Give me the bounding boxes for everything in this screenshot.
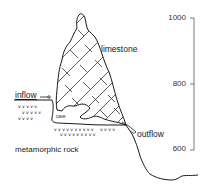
- elevation-tick-1000: 1000: [156, 14, 186, 22]
- svg-text:v v v v: v v v v: [100, 127, 115, 132]
- svg-text:v v v v v: v v v v v: [22, 110, 41, 115]
- metamorphic-rock-label: metamorphic rock: [15, 146, 79, 154]
- svg-text:v v v v v: v v v v v: [18, 104, 37, 109]
- inflow-arrow: [40, 96, 50, 98]
- outflow-label: outflow: [137, 130, 164, 139]
- elevation-tick-600: 600: [156, 145, 186, 153]
- elevation-axis: [190, 18, 194, 150]
- elevation-tick-800: 800: [156, 80, 186, 88]
- limestone-label: limestone: [101, 45, 137, 54]
- inflow-label: inflow: [15, 91, 37, 100]
- svg-text:v v v v v v v v v: v v v v v v v v v: [60, 132, 96, 137]
- cave-label: cave: [56, 115, 66, 120]
- svg-text:v v v v: v v v v: [18, 116, 33, 121]
- outflow-water: [122, 122, 136, 133]
- ground-surface: [14, 100, 198, 180]
